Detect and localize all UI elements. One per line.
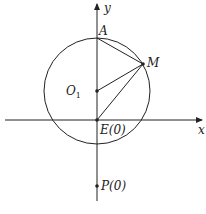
point-e (95, 118, 99, 122)
segment-o1m (97, 64, 143, 91)
point-o1 (95, 89, 99, 93)
label-a: A (98, 24, 108, 38)
y-axis-label: y (103, 1, 111, 15)
segment-am (97, 38, 143, 64)
label-p: P(0) (100, 179, 126, 193)
coordinate-diagram: y x A M O1 E(0) P(0) (0, 0, 206, 214)
point-m (141, 62, 145, 66)
point-p (95, 184, 99, 188)
label-o1: O1 (66, 84, 81, 100)
label-o1-sub: 1 (76, 91, 81, 100)
segment-em (97, 64, 143, 120)
label-o1-main: O (66, 84, 76, 98)
label-e: E(0) (99, 123, 126, 137)
label-m: M (146, 56, 160, 70)
x-axis-label: x (198, 123, 205, 137)
